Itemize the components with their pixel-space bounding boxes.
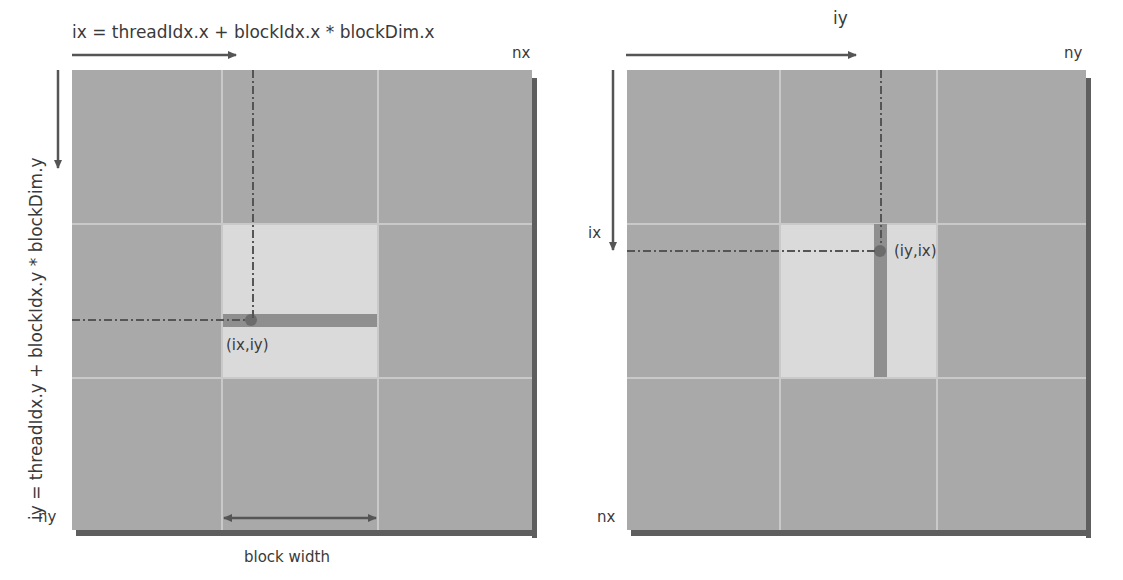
arrows-overlay <box>0 0 1123 580</box>
